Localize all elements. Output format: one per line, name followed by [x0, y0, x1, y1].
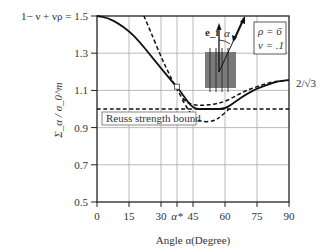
x-tick-label: α* — [171, 210, 183, 222]
y-tick-label: 0.9 — [74, 122, 88, 134]
x-axis-label: Angle α(Degree) — [156, 234, 231, 247]
alpha-star-marker — [175, 84, 180, 89]
angle-label: α — [224, 27, 230, 39]
x-tick-label: 0 — [94, 210, 100, 222]
chart: 0.50.70.91.11.3 01530α*45607590 e_f α ρ … — [0, 0, 331, 252]
fiber-label: e_f — [205, 26, 219, 38]
x-tick-label: 15 — [124, 210, 136, 222]
x-tick-label: 60 — [220, 210, 232, 222]
y-tick-label: 1.1 — [74, 84, 88, 96]
top-left-label: 1− ν + νρ = 1.5 — [21, 10, 89, 22]
x-axis-ticks: 01530α*45607590 — [94, 202, 295, 222]
x-tick-label: 75 — [252, 210, 264, 222]
x-tick-label: 90 — [284, 210, 296, 222]
y-axis-ticks: 0.50.70.91.11.3 — [74, 16, 97, 208]
svg-text:Reuss strength bound: Reuss strength bound — [106, 112, 201, 124]
right-label: 2/√3 — [296, 77, 317, 89]
y-tick-label: 0.5 — [74, 196, 88, 208]
params-box: ρ = 6 ν = .1 — [254, 22, 286, 54]
y-axis-label: Σ_α / σ_0^m — [52, 82, 64, 138]
x-tick-label: 30 — [156, 210, 168, 222]
fiber-diagram: e_f α — [205, 16, 245, 92]
svg-text:ρ = 6: ρ = 6 — [257, 25, 282, 37]
svg-text:ν = .1: ν = .1 — [258, 39, 284, 51]
y-tick-label: 1.3 — [74, 47, 88, 59]
y-tick-label: 0.7 — [74, 159, 88, 171]
x-tick-label: 45 — [188, 210, 200, 222]
reuss-label-box: Reuss strength bound — [102, 112, 201, 125]
